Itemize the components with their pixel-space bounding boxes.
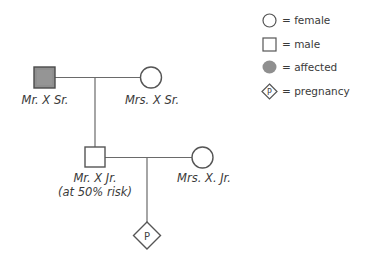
- legend-female-circle-icon: [263, 14, 276, 27]
- legend-male-square-icon: [263, 38, 276, 51]
- pregnancy-symbol-text: P: [144, 231, 150, 242]
- mr-x-sr-label: Mr. X Sr.: [18, 93, 72, 107]
- mrs-x-sr-label: Mrs. X Sr.: [122, 93, 182, 107]
- mrs-x-jr-label: Mrs. X. Jr.: [173, 171, 235, 185]
- female-circle-icon: [141, 67, 162, 88]
- male-square-icon: [85, 147, 105, 167]
- legend-affected-label: = affected: [282, 61, 337, 74]
- legend-symbols: P: [262, 14, 277, 99]
- legend-affected-blob-icon: [263, 61, 277, 74]
- mr-x-jr-label: Mr. X Jr.: [67, 171, 123, 185]
- legend-male-label: = male: [282, 38, 320, 51]
- female-circle-icon: [192, 147, 213, 168]
- mr-x-jr-risk-label: (at 50% risk): [53, 185, 137, 199]
- pregnancy-diamond-icon: P: [134, 222, 161, 249]
- legend-pregnancy-label: = pregnancy: [282, 85, 350, 98]
- legend-pregnancy-p-text: P: [267, 88, 272, 97]
- legend-female-label: = female: [282, 14, 330, 27]
- mr-x-sr-symbol: [34, 67, 55, 88]
